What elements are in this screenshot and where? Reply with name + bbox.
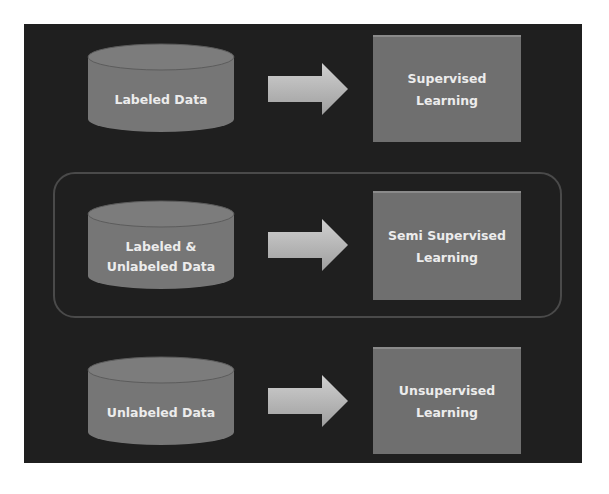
method-label: Unsupervised Learning: [382, 380, 512, 424]
unsupervised-learning-box: Unsupervised Learning: [373, 347, 521, 454]
arrow-right-icon: [268, 375, 348, 427]
unlabeled-data-cylinder: Unlabeled Data: [86, 356, 236, 446]
data-label: Unlabeled Data: [86, 380, 236, 446]
supervised-learning-box: Supervised Learning: [373, 35, 521, 142]
labeled-data-cylinder: Labeled Data: [86, 43, 236, 133]
data-label: Labeled & Unlabeled Data: [86, 224, 236, 290]
method-label: Supervised Learning: [382, 68, 512, 112]
semi-supervised-learning-box: Semi Supervised Learning: [373, 191, 521, 300]
labeled-unlabeled-data-cylinder: Labeled & Unlabeled Data: [86, 200, 236, 290]
arrow-right-icon: [268, 63, 348, 115]
method-label: Semi Supervised Learning: [382, 225, 512, 269]
arrow-right-icon: [268, 219, 348, 271]
data-label: Labeled Data: [86, 67, 236, 133]
